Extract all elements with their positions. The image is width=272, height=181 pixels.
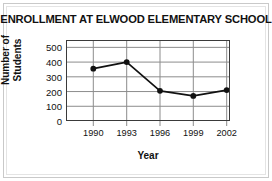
x-axis-title: Year [66,150,230,161]
x-tick-label-1990: 1990 [83,128,103,138]
y-tick-label-100: 100 [46,101,62,112]
x-tick-label-1999: 1999 [183,128,203,138]
y-tick-label-200: 200 [46,86,62,97]
x-tick-label-1996: 1996 [150,128,170,138]
plot-area: 500 400 300 200 100 0 1990 1993 1996 199… [66,40,230,121]
y-tick-label-300: 300 [46,71,62,82]
y-tick-label-0: 0 [57,116,62,127]
y-axis-title: Number of Students [0,20,28,100]
y-axis-title-line-2: Students [12,20,24,100]
x-tick-label-1993: 1993 [116,128,136,138]
x-tick-label-2002: 2002 [216,128,236,138]
y-tick-label-400: 400 [46,57,62,68]
chart-figure: ENROLLMENT AT ELWOOD ELEMENTARY SCHOOL N… [0,0,272,181]
plot-border [66,40,230,121]
y-axis-title-line-1: Number of [0,20,12,100]
y-tick-label-500: 500 [46,42,62,53]
chart-title: ENROLLMENT AT ELWOOD ELEMENTARY SCHOOL [0,13,272,25]
